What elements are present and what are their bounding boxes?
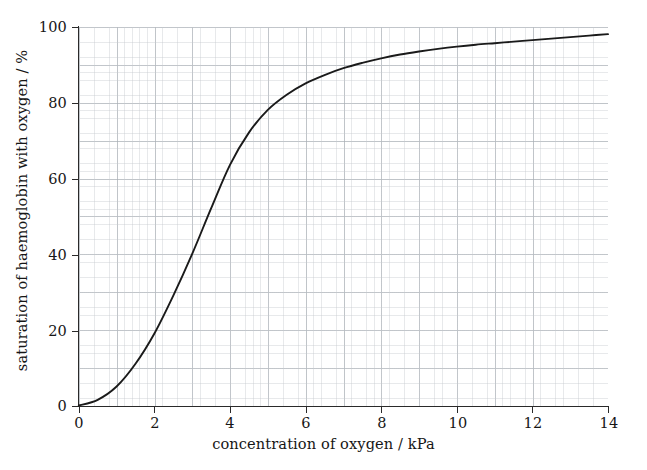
y-axis-title-container: saturation of haemoglobin with oxygen / … [0,0,44,420]
y-axis-title: saturation of haemoglobin with oxygen / … [14,49,31,370]
x-tick-label-8: 8 [377,416,386,431]
y-tick-40 [72,255,79,256]
x-tick-8 [381,406,382,413]
y-tick-label-80: 80 [48,96,67,111]
x-tick-label-2: 2 [150,416,159,431]
y-tick-label-20: 20 [48,324,67,339]
y-tick-label-40: 40 [48,248,67,263]
x-tick-label-6: 6 [301,416,310,431]
x-tick-label-14: 14 [600,416,619,431]
x-axis-line [78,406,609,407]
plot-grid-background [79,27,608,406]
y-axis-line [78,26,79,407]
x-tick-6 [306,406,307,413]
x-tick-label-10: 10 [449,416,468,431]
x-tick-2 [154,406,155,413]
x-axis-title: concentration of oxygen / kPa [0,435,647,452]
x-tick-4 [230,406,231,413]
x-tick-label-0: 0 [74,416,83,431]
y-tick-100 [72,27,79,28]
x-tick-label-4: 4 [225,416,234,431]
y-tick-label-60: 60 [48,172,67,187]
oxygen-dissociation-chart: 100 80 60 40 20 0 0 2 4 6 8 10 12 14 con… [0,0,647,470]
x-tick-0 [79,406,80,413]
y-tick-20 [72,331,79,332]
y-tick-80 [72,103,79,104]
y-tick-label-0: 0 [58,399,67,414]
x-tick-label-12: 12 [524,416,543,431]
x-tick-10 [457,406,458,413]
x-tick-14 [608,406,609,413]
x-tick-12 [532,406,533,413]
y-tick-60 [72,179,79,180]
